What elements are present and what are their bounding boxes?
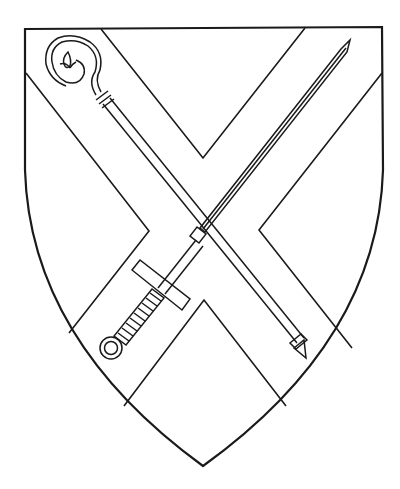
sword xyxy=(100,40,350,359)
crozier xyxy=(46,36,307,358)
shield-outline xyxy=(25,27,383,466)
saltire xyxy=(26,28,382,406)
coat-of-arms xyxy=(0,0,400,489)
